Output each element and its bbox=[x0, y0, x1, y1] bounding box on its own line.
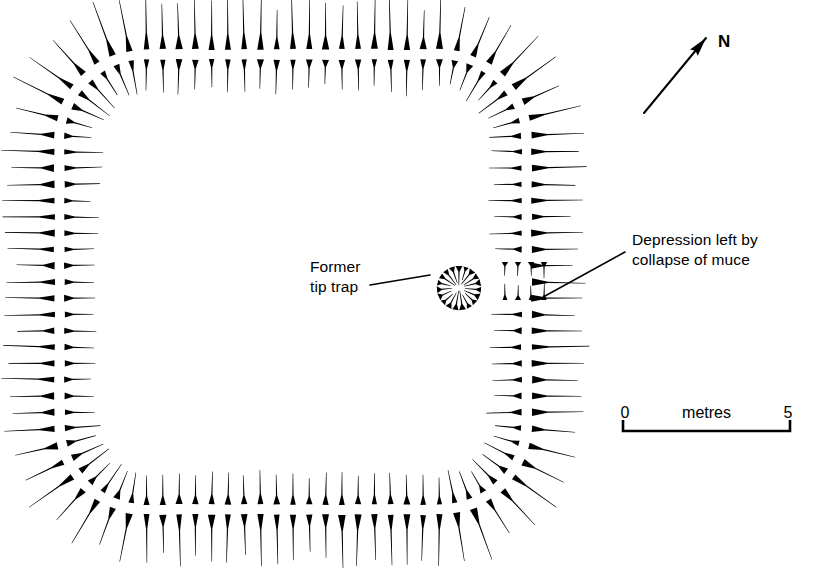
plan-canvas: Formertip trapDepression left bycollapse… bbox=[0, 0, 839, 568]
label-line-1: Depression left by bbox=[632, 231, 758, 248]
map-label-depression-collapse: Depression left bycollapse of muce bbox=[632, 231, 758, 268]
former-tip-trap-hachures bbox=[437, 266, 481, 310]
scale-bar-min-label: 0 bbox=[621, 404, 630, 421]
earthwork-plan-figure: Formertip trapDepression left bycollapse… bbox=[0, 0, 839, 568]
north-arrow: N bbox=[644, 32, 730, 113]
leader-line-former-tip-trap bbox=[370, 275, 430, 285]
label-line-2: tip trap bbox=[310, 278, 358, 295]
scale-bar: 0 metres 5 bbox=[621, 404, 793, 431]
scale-bar-max-label: 5 bbox=[784, 404, 793, 421]
north-arrow-label: N bbox=[718, 32, 730, 51]
scale-bar-rule bbox=[623, 420, 790, 431]
label-line-1: Former bbox=[310, 258, 361, 275]
map-label-former-tip-trap: Formertip trap bbox=[310, 258, 361, 295]
label-line-2: collapse of muce bbox=[632, 251, 750, 268]
enclosure-bank-hachures bbox=[1, 0, 589, 568]
leader-line-depression-collapse bbox=[545, 252, 625, 296]
scale-bar-units-label: metres bbox=[682, 404, 731, 421]
